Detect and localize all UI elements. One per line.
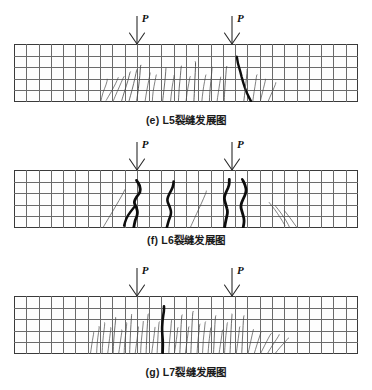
crack-minor: [284, 211, 297, 228]
crack-minor: [141, 322, 144, 355]
crack-major: [241, 179, 246, 228]
beam-outline-e: [14, 44, 358, 102]
crack-minor: [253, 74, 257, 102]
crack-minor: [267, 334, 279, 354]
crack-major: [167, 182, 174, 228]
cracks-g: [14, 296, 358, 354]
crack-minor: [185, 326, 189, 354]
crack-minor: [242, 316, 244, 354]
crack-minor: [260, 333, 271, 354]
crack-minor: [180, 315, 182, 354]
load-arrow-f-1: [219, 142, 245, 171]
load-arrow-e-0: [124, 16, 150, 45]
load-arrow-e-1: [219, 16, 245, 45]
caption-f: (f) L6裂缝发展图: [0, 232, 372, 247]
load-label-f-1: P: [237, 138, 244, 150]
crack-minor: [157, 322, 159, 355]
crack-minor: [209, 67, 212, 101]
caption-e: (e) L5裂缝发展图: [0, 112, 372, 127]
crack-minor: [102, 323, 105, 354]
arrowhead-icon: [129, 285, 144, 296]
arrowhead-icon: [225, 159, 240, 170]
crack-minor: [186, 77, 190, 103]
arrowhead-icon: [129, 159, 144, 170]
crack-minor: [254, 332, 261, 354]
grid-g: [14, 296, 358, 354]
crack-minor: [219, 330, 223, 354]
crack-major: [237, 57, 252, 102]
crack-minor: [224, 66, 226, 101]
grid-e: [14, 44, 358, 102]
cracks-f: [14, 170, 358, 228]
crack-minor: [171, 75, 175, 102]
crack-minor: [202, 74, 206, 102]
crack-minor: [269, 203, 285, 226]
arrowhead-icon: [225, 285, 240, 296]
arrowhead-icon: [225, 33, 240, 44]
crack-minor: [197, 324, 200, 354]
crack-major: [134, 180, 141, 228]
load-label-e-0: P: [142, 12, 149, 24]
crack-minor: [260, 79, 266, 102]
crack-minor: [214, 316, 216, 354]
crack-minor: [137, 65, 141, 102]
crack-minor: [244, 70, 247, 102]
panel-e: PP(e) L5裂缝发展图: [0, 0, 372, 390]
crack-minor: [275, 338, 289, 354]
load-label-f-0: P: [142, 138, 149, 150]
crack-minor: [121, 71, 130, 102]
crack-minor: [169, 319, 172, 354]
beam-e: [14, 44, 358, 102]
arrowhead-icon: [129, 33, 144, 44]
crack-minor: [230, 313, 232, 354]
crack-minor: [97, 326, 100, 354]
load-arrow-f-0: [124, 142, 150, 171]
crack-minor: [103, 190, 125, 228]
crack-minor: [248, 330, 254, 354]
panel-f: PP(f) L6裂缝发展图: [0, 0, 372, 390]
crack-minor: [268, 82, 276, 102]
cracks-e: [14, 44, 358, 102]
load-label-g-0: P: [142, 264, 149, 276]
load-arrow-g-1: [219, 268, 245, 297]
load-label-g-1: P: [237, 264, 244, 276]
crack-minor: [217, 77, 221, 102]
crack-minor: [208, 327, 211, 354]
crack-minor: [190, 191, 207, 228]
crack-minor: [101, 79, 108, 102]
load-arrow-g-0: [124, 268, 150, 297]
crack-minor: [113, 317, 116, 354]
crack-minor: [145, 73, 150, 101]
crack-minor: [174, 327, 177, 354]
beam-f: [14, 170, 358, 228]
crack-minor: [119, 330, 122, 354]
panel-g: PP(g) L7裂缝发展图: [0, 0, 372, 390]
crack-minor: [225, 323, 228, 354]
crack-minor: [124, 323, 127, 354]
crack-minor: [108, 327, 111, 354]
crack-major: [224, 179, 229, 228]
crack-minor: [106, 78, 118, 101]
beam-outline-f: [14, 170, 358, 228]
crack-minor: [191, 311, 193, 354]
crack-minor: [129, 70, 137, 102]
crack-minor: [163, 67, 166, 101]
load-label-e-1: P: [237, 12, 244, 24]
crack-minor: [236, 326, 240, 354]
beam-outline-g: [14, 296, 358, 354]
crack-major: [124, 206, 135, 226]
crack-minor: [152, 327, 155, 354]
crack-minor: [113, 76, 124, 102]
crack-major: [162, 306, 164, 354]
crack-minor: [90, 332, 93, 354]
crack-minor: [146, 313, 148, 354]
crack-minor: [152, 74, 156, 102]
caption-g: (g) L7裂缝发展图: [0, 364, 372, 379]
crack-minor: [130, 315, 132, 354]
crack-minor: [275, 206, 290, 228]
crack-minor: [194, 61, 196, 101]
crack-minor: [135, 326, 138, 354]
crack-minor: [178, 66, 181, 101]
grid-f: [14, 170, 358, 228]
beam-g: [14, 296, 358, 354]
